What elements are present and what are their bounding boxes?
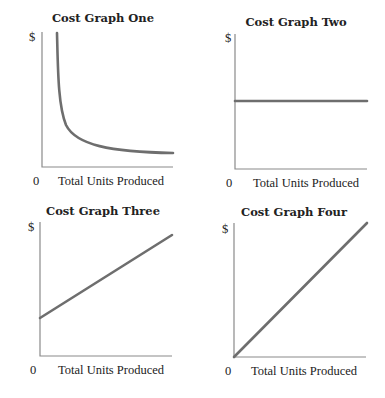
- plot-line-decreasing-curve: [57, 33, 173, 153]
- y-axis-label: $: [225, 31, 231, 45]
- plot-line-through-origin: [234, 223, 367, 357]
- y-axis-label: $: [28, 220, 34, 234]
- chart-title: Cost Graph Four: [241, 205, 348, 219]
- cost-graphs-figure: Cost Graph One $ 0 Total Units Produced …: [0, 0, 385, 398]
- origin-label: 0: [225, 364, 231, 378]
- y-axis-label: $: [29, 30, 35, 44]
- chart-title: Cost Graph Two: [245, 15, 347, 29]
- cost-graph-one: Cost Graph One $ 0 Total Units Produced: [29, 11, 173, 188]
- origin-label: 0: [30, 363, 36, 377]
- chart-title: Cost Graph Three: [46, 204, 160, 218]
- cost-graph-two: Cost Graph Two $ 0 Total Units Produced: [225, 15, 367, 190]
- x-axis-label: Total Units Produced: [253, 176, 360, 190]
- x-axis-label: Total Units Produced: [58, 174, 165, 188]
- origin-label: 0: [33, 174, 39, 188]
- chart-title: Cost Graph One: [52, 11, 154, 25]
- y-axis-label: $: [222, 222, 228, 236]
- x-axis-label: Total Units Produced: [58, 363, 165, 377]
- cost-graph-four: Cost Graph Four $ 0 Total Units Produced: [222, 205, 367, 378]
- x-axis-label: Total Units Produced: [251, 364, 358, 378]
- axes: [40, 222, 172, 356]
- plot-line-mixed-cost: [40, 235, 172, 318]
- origin-label: 0: [226, 176, 232, 190]
- cost-graph-three: Cost Graph Three $ 0 Total Units Produce…: [28, 204, 172, 377]
